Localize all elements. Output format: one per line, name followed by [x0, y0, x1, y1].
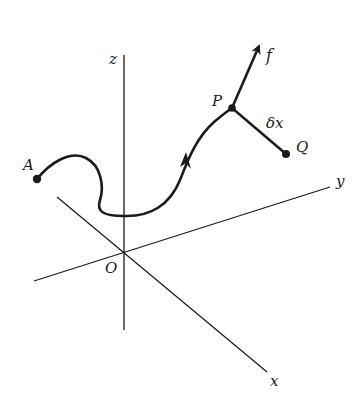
point-a-label: A [21, 156, 34, 174]
path-curve [37, 108, 232, 216]
force-label: f [265, 46, 275, 65]
y-axis [34, 187, 330, 281]
origin-label: O [105, 259, 117, 277]
z-axis-label: z [108, 50, 117, 68]
x-axis-label: x [270, 372, 279, 390]
displacement-label: δx [266, 114, 284, 132]
point-p [228, 104, 236, 112]
point-a [33, 175, 41, 183]
point-q-label: Q [296, 138, 308, 156]
point-p-label: P [211, 92, 223, 110]
force-vector-f [232, 46, 259, 108]
point-q [282, 150, 290, 158]
x-axis [57, 197, 267, 372]
y-axis-label: y [335, 172, 345, 190]
diagram-canvas: z y x O A P Q f δx [0, 0, 361, 403]
